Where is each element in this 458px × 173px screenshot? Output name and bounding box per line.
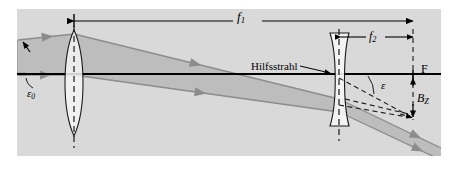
ray-diagram-svg [0,0,458,173]
label-focal-point: F [421,63,428,75]
exit-beam-band [339,99,441,160]
ray-lower-exit [339,112,441,160]
label-epsilon: ε [381,80,385,91]
label-f1: f1 [237,10,245,25]
label-hilfsstrahl: Hilfsstrahl [251,61,297,72]
ray-arrow-upper-in [45,36,52,37]
epsilon-angle-arc [368,76,374,94]
hilfsstrahl-leader [300,66,330,73]
label-beam-size: BZ [417,92,429,106]
label-epsilon-zero: ε0 [27,88,35,100]
label-f2: f2 [369,30,376,44]
ray-upper-exit [339,99,441,148]
optics-figure: f1 f2 Hilfsstrahl F ε ε0 BZ [0,0,458,173]
